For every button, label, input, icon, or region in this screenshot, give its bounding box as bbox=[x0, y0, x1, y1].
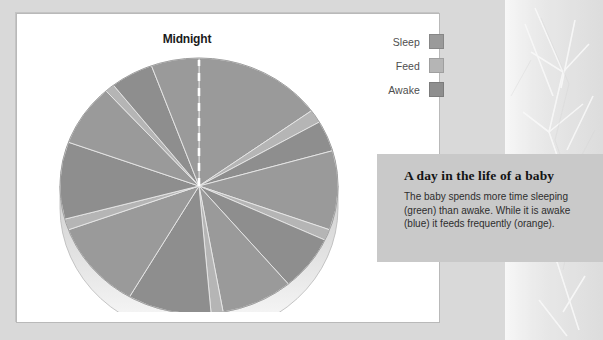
legend-item-label: Awake bbox=[388, 84, 420, 96]
legend-swatch-icon bbox=[429, 58, 444, 73]
caption-box: A day in the life of a baby The baby spe… bbox=[377, 154, 603, 262]
legend-item-label: Feed bbox=[396, 60, 420, 72]
legend-swatch-icon bbox=[429, 82, 444, 97]
chart-legend: Sleep Feed Awake bbox=[334, 34, 444, 106]
legend-item-sleep[interactable]: Sleep bbox=[334, 34, 444, 49]
legend-item-feed[interactable]: Feed bbox=[334, 58, 444, 73]
legend-item-awake[interactable]: Awake bbox=[334, 82, 444, 97]
legend-item-label: Sleep bbox=[393, 36, 420, 48]
pie-chart-svg[interactable] bbox=[39, 42, 339, 312]
caption-body: The baby spends more time sleeping (gree… bbox=[404, 190, 589, 231]
caption-title: A day in the life of a baby bbox=[404, 168, 589, 184]
legend-swatch-icon bbox=[429, 34, 444, 49]
page-title: Midnight bbox=[17, 32, 357, 46]
